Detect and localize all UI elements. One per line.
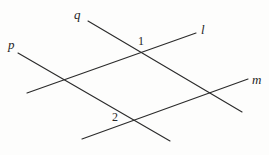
line-label-p: p <box>8 38 15 51</box>
line-q <box>88 21 242 112</box>
geometry-figure <box>0 0 269 155</box>
line-l <box>27 33 196 93</box>
angle-label-1: 1 <box>138 35 144 47</box>
line-m <box>82 79 248 139</box>
line-label-l: l <box>201 23 205 36</box>
line-p <box>18 53 170 141</box>
line-label-q: q <box>74 8 81 21</box>
line-label-m: m <box>252 73 261 86</box>
angle-label-2: 2 <box>112 111 118 123</box>
